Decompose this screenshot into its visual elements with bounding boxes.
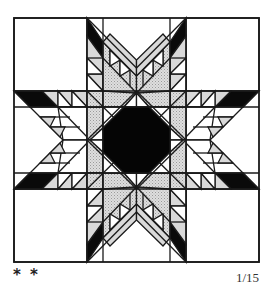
page-number: 1/15 (236, 270, 259, 286)
quilt-block-figure (0, 0, 279, 270)
difficulty-rating: * * (13, 266, 40, 284)
